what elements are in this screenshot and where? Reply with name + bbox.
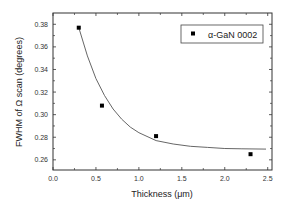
data-point-square-icon [249,152,253,156]
y-tick-label: 0.26 [34,156,48,163]
y-tick-label: 0.28 [34,134,48,141]
y-axis-label: FWHM of Ω scan (degrees) [14,37,24,147]
data-point-square-icon [100,104,104,108]
legend-marker-square-icon [191,32,195,36]
x-tick-label: 2.0 [220,175,230,182]
legend-label: α-GaN 0002 [208,30,257,40]
y-tick-label: 0.38 [34,21,48,28]
data-points [77,26,253,157]
x-tick-label: 1.0 [134,175,144,182]
x-tick-label: 1.5 [177,175,187,182]
x-tick-label: 2.5 [263,175,273,182]
y-tick-label: 0.32 [34,89,48,96]
x-tick-label: 0.5 [91,175,101,182]
data-point-square-icon [154,134,158,138]
chart: 0.00.51.01.52.02.5 0.260.280.300.320.340… [0,0,300,207]
y-tick-label: 0.36 [34,43,48,50]
fit-curve [79,28,266,149]
data-point-square-icon [77,26,81,30]
y-tick-label: 0.34 [34,66,48,73]
y-tick-label: 0.30 [34,111,48,118]
x-axis-label: Thickness (μm) [131,189,193,199]
legend: α-GaN 0002 [181,25,263,43]
x-tick-label: 0.0 [48,175,58,182]
